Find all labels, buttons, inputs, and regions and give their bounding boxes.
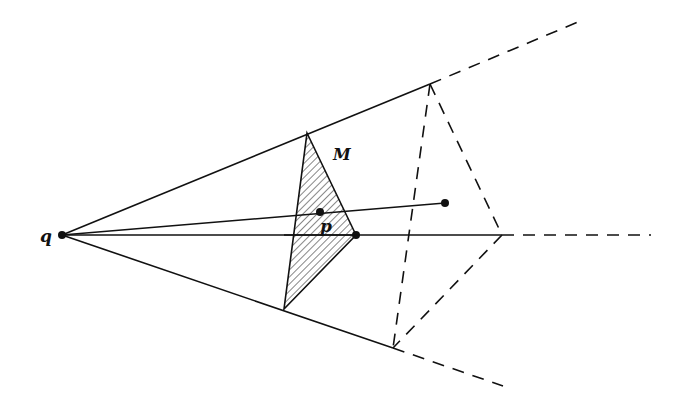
far-edge-right-bottom bbox=[393, 235, 502, 348]
diagram-canvas: q M p bbox=[0, 0, 678, 414]
far-edge-top-right bbox=[430, 84, 502, 235]
label-M: M bbox=[332, 145, 352, 164]
label-p: p bbox=[320, 216, 332, 236]
ray-top-dashed bbox=[430, 22, 578, 84]
ray-top-solid bbox=[62, 84, 430, 235]
point-segment-end bbox=[441, 199, 449, 207]
point-p bbox=[316, 208, 324, 216]
ray-bottom-dashed bbox=[393, 348, 503, 386]
label-q: q bbox=[40, 226, 52, 246]
point-q bbox=[58, 231, 66, 239]
far-edge-top-bottom bbox=[393, 84, 430, 348]
ray-bottom-solid bbox=[62, 235, 393, 348]
point-M-right bbox=[352, 231, 360, 239]
segment-q-p bbox=[62, 203, 445, 235]
